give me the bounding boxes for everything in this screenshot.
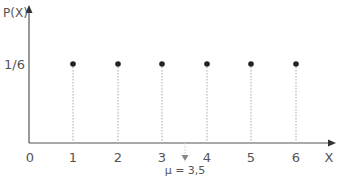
x-tick-4: 4: [203, 150, 211, 165]
x-tick-1: 1: [69, 150, 77, 165]
x-axis-arrow-icon: [328, 140, 336, 147]
point-4: [204, 61, 210, 67]
x-tick-2: 2: [114, 150, 122, 165]
mean-label: μ = 3,5: [165, 164, 206, 177]
x-tick-6: 6: [292, 150, 300, 165]
x-tick-5: 5: [247, 150, 255, 165]
mean-marker-icon: [182, 155, 189, 161]
point-5: [248, 61, 254, 67]
point-6: [293, 61, 299, 67]
stems: [73, 64, 296, 143]
data-points: [70, 61, 299, 67]
chart: P(X) 1/6 0 1 2 3 4 5 6 X μ = 3,5: [0, 0, 338, 186]
y-tick-label: 1/6: [4, 57, 25, 72]
point-3: [159, 61, 165, 67]
x-tick-3: 3: [158, 150, 166, 165]
y-axis-label: P(X): [3, 6, 28, 20]
point-1: [70, 61, 76, 67]
x-tick-0: 0: [26, 150, 34, 165]
point-2: [115, 61, 121, 67]
x-axis-label: X: [325, 150, 334, 165]
